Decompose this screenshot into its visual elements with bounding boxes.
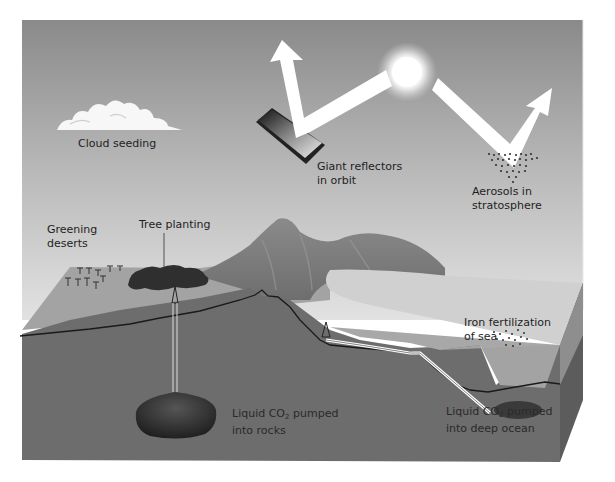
co2-ocean-label-line1: Liquid CO2 pumped [446, 405, 552, 422]
greening-deserts-label-line2: deserts [47, 237, 97, 251]
tree-planting-label: Tree planting [139, 218, 211, 232]
greening-deserts-label-line1: Greening [47, 223, 97, 237]
iron-fertilization-label-line1: Iron fertilization [464, 316, 551, 330]
co2-ocean-label-line2: into deep ocean [446, 422, 552, 436]
co2-rocks-label-line2: into rocks [232, 424, 338, 438]
cloud-seeding-label: Cloud seeding [78, 137, 156, 151]
giant-reflectors-label: Giant reflectors in orbit [317, 160, 402, 188]
aerosols-label: Aerosols in stratosphere [472, 185, 542, 213]
aerosols-label-line1: Aerosols in [472, 185, 542, 199]
giant-reflectors-label-line2: in orbit [317, 174, 402, 188]
iron-fertilization-label: Iron fertilization of sea [464, 316, 551, 344]
giant-reflectors-label-line1: Giant reflectors [317, 160, 402, 174]
co2-rocks-label-line1: Liquid CO2 pumped [232, 407, 338, 424]
geoengineering-diagram: Cloud seeding Giant reflectors in orbit … [0, 0, 615, 482]
co2-ocean-label: Liquid CO2 pumped into deep ocean [446, 405, 552, 436]
iron-fertilization-label-line2: of sea [464, 330, 551, 344]
co2-rocks-label: Liquid CO2 pumped into rocks [232, 407, 338, 438]
greening-deserts-label: Greening deserts [47, 223, 97, 251]
aerosols-label-line2: stratosphere [472, 199, 542, 213]
